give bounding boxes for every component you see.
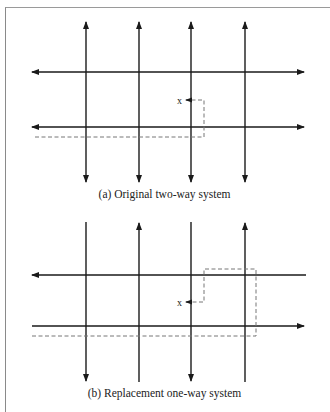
panel-b-one-way xyxy=(32,222,306,382)
caption-panel-a: (a) Original two-way system xyxy=(0,188,329,200)
caption-panel-b: (b) Replacement one-way system xyxy=(0,387,329,399)
marker-b-label: x xyxy=(177,297,182,308)
route-a-dashed xyxy=(35,100,204,137)
panel-a-two-way xyxy=(32,22,304,182)
marker-a-label: x xyxy=(177,95,182,106)
